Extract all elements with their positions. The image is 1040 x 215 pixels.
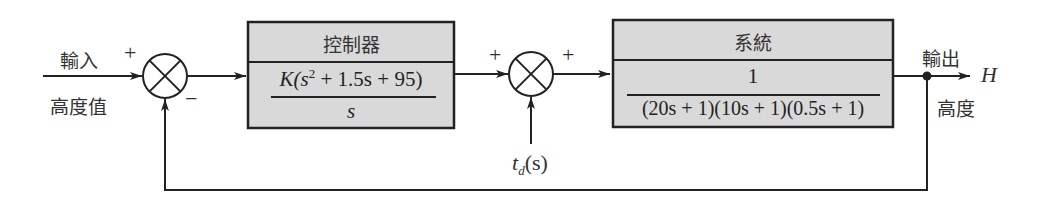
- summing-junction-1: [143, 54, 187, 98]
- output-sublabel: 高度: [937, 94, 975, 121]
- controller-num-prefix: K(s: [280, 67, 309, 91]
- disturbance-label: td(s): [512, 150, 548, 179]
- system-numerator: 1: [613, 64, 893, 89]
- output-label: 輸出: [922, 44, 960, 71]
- summing-junction-2: [509, 52, 553, 96]
- input-label: 輸入: [60, 46, 98, 73]
- controller-numerator: K(s2 + 1.5s + 95): [248, 66, 454, 92]
- output-symbol: H: [981, 62, 997, 88]
- system-fraction-bar: [627, 94, 880, 96]
- controller-den-text: s: [347, 99, 355, 123]
- disturbance-arg: (s): [525, 150, 548, 175]
- controller-fraction-bar: [271, 96, 436, 98]
- controller-title: 控制器: [248, 30, 454, 57]
- system-title: 系統: [613, 28, 893, 55]
- sj1-plus-sign: +: [124, 40, 136, 66]
- controller-denominator: s: [248, 99, 454, 124]
- sj2-right-plus-sign: +: [562, 42, 574, 68]
- input-sublabel: 高度值: [50, 92, 107, 119]
- sj1-minus-sign: −: [185, 86, 197, 112]
- sj2-left-plus-sign: +: [489, 42, 501, 68]
- system-denominator: (20s + 1)(10s + 1)(0.5s + 1): [613, 97, 893, 120]
- controller-num-suffix: + 1.5s + 95): [315, 67, 422, 91]
